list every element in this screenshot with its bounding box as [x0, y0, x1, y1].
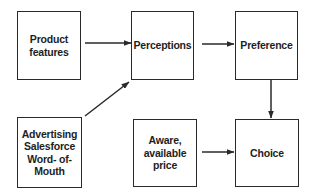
arrow-advertising-to-perceptions	[85, 82, 129, 116]
edges-layer	[0, 0, 318, 195]
consumer-choice-diagram: Product features Perceptions Preference …	[0, 0, 318, 195]
